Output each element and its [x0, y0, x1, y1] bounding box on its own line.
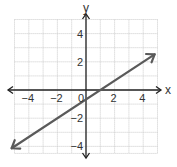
- y-tick-label: −2: [70, 112, 83, 124]
- y-tick-label: 4: [77, 28, 83, 40]
- x-axis-label: x: [165, 83, 171, 97]
- x-tick-label: −2: [50, 92, 63, 104]
- y-tick-label: 2: [77, 56, 83, 68]
- coordinate-plane: −4−202442−2−4xy: [0, 0, 177, 167]
- y-axis-label: y: [83, 1, 89, 15]
- x-tick-label: −4: [22, 92, 35, 104]
- x-tick-label: 4: [139, 92, 145, 104]
- origin-label: 0: [78, 92, 84, 104]
- y-tick-label: −4: [70, 140, 83, 152]
- x-tick-label: 2: [111, 92, 117, 104]
- tick-labels: −4−202442−2−4xy: [22, 1, 171, 152]
